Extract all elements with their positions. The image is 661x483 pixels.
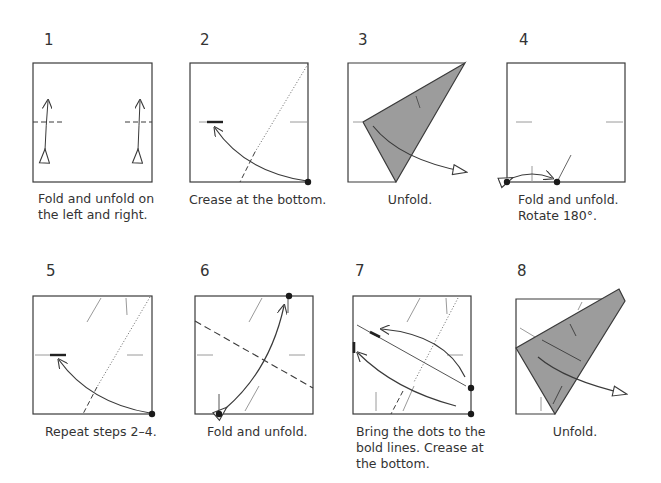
folding-diagram	[0, 0, 661, 483]
upper-dot	[468, 385, 474, 391]
step-3-diagram	[348, 63, 466, 182]
corner-dot	[305, 179, 311, 185]
crease-top-diagonal	[578, 302, 582, 310]
step-8-diagram	[516, 289, 626, 414]
step-5-diagram	[33, 296, 155, 417]
corner-dot	[504, 179, 510, 185]
step-7-diagram	[353, 296, 474, 417]
corner-dot	[149, 411, 155, 417]
step-6-diagram	[195, 293, 313, 417]
corner-dot	[468, 411, 474, 417]
folded-flap	[516, 289, 625, 414]
step-2-diagram	[190, 63, 311, 185]
folded-flap	[363, 63, 465, 182]
step-4-diagram	[504, 63, 625, 185]
step-1-diagram	[33, 63, 152, 182]
crease-dot	[554, 179, 560, 185]
top-dot	[286, 293, 292, 299]
crease-left-diagonal	[520, 328, 535, 337]
bottom-dot	[216, 411, 222, 417]
